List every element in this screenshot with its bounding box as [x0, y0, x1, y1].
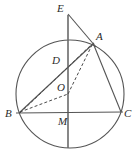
segment-EA	[68, 14, 96, 47]
point-label-O: O	[57, 82, 65, 93]
segment-AC	[93, 43, 121, 112]
point-label-C: C	[124, 108, 131, 119]
point-label-M: M	[58, 116, 67, 127]
segment-BC	[16, 112, 123, 113]
circle-outline	[16, 40, 124, 148]
geometry-diagram: E A D O B M C	[0, 0, 136, 164]
segment-OA-dashed	[68, 45, 92, 94]
point-label-A: A	[96, 31, 103, 42]
point-label-E: E	[57, 3, 64, 14]
point-label-D: D	[52, 55, 60, 66]
segment-BO-dashed	[20, 94, 68, 112]
figure-canvas	[0, 0, 136, 164]
point-label-B: B	[5, 108, 12, 119]
